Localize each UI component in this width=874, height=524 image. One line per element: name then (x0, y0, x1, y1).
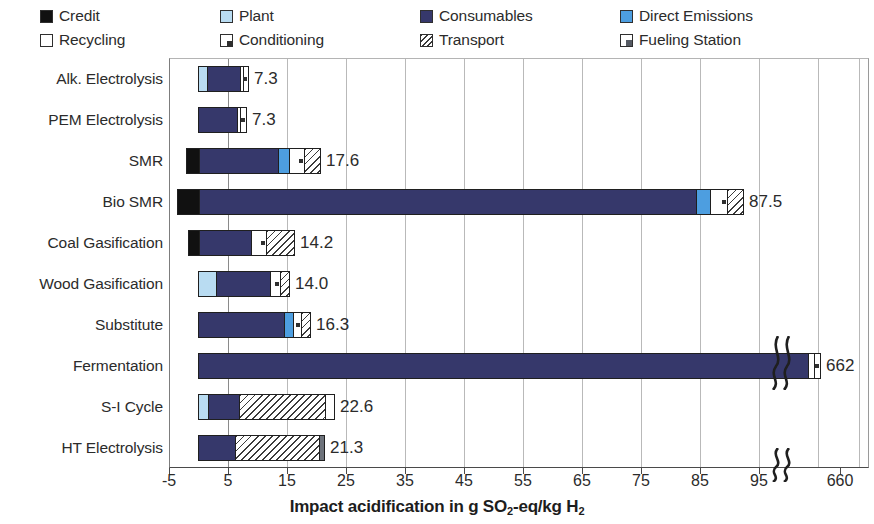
x-tick-mark-7 (582, 468, 583, 474)
x-tick-mark-8 (641, 468, 642, 474)
y-axis-label-8: S-I Cycle (101, 398, 163, 416)
x-axis-title-sub-2: 2 (578, 505, 584, 517)
x-axis-title-main: Impact acidification in g SO (290, 497, 507, 516)
plot-area: 7.37.317.687.514.214.016.366222.621.3 (169, 58, 869, 468)
legend-swatch-credit-icon (40, 10, 53, 23)
legend-swatch-conditioning-icon (220, 34, 233, 47)
x-tick-mark-4 (405, 468, 406, 474)
x-tick-label-8: 75 (632, 472, 650, 490)
legend-label-fueling: Fueling Station (639, 31, 741, 49)
legend-item-plant[interactable]: Plant (220, 7, 420, 25)
x-tick-mark-11 (840, 468, 841, 474)
legend-swatch-fueling-icon (620, 34, 633, 47)
y-axis-label-7: Fermentation (73, 357, 163, 375)
x-tick-label-0: -5 (162, 472, 176, 490)
y-axis-label-5: Wood Gasification (39, 275, 163, 293)
y-axis-label-0: Alk. Electrolysis (56, 70, 163, 88)
x-tick-label-4: 35 (396, 472, 414, 490)
legend-label-consumables: Consumables (439, 7, 533, 25)
legend-swatch-recycling-icon (40, 34, 53, 47)
legend-item-consumables[interactable]: Consumables (420, 7, 620, 25)
x-tick-label-9: 85 (691, 472, 709, 490)
x-axis-title: Impact acidification in g SO2-eq/kg H2 (0, 497, 874, 517)
legend-swatch-transport-icon (420, 34, 433, 47)
x-tick-mark-2 (287, 468, 288, 474)
x-tick-label-7: 65 (573, 472, 591, 490)
legend-item-conditioning[interactable]: Conditioning (220, 31, 420, 49)
legend-item-fueling[interactable]: Fueling Station (620, 31, 840, 49)
x-tick-mark-0 (169, 468, 170, 474)
x-tick-label-11: 660 (827, 472, 854, 490)
legend-swatch-consumables-icon (420, 10, 433, 23)
y-axis-label-9: HT Electrolysis (61, 439, 163, 457)
legend-label-recycling: Recycling (59, 31, 125, 49)
y-axis-label-1: PEM Electrolysis (48, 111, 163, 129)
legend-label-credit: Credit (59, 7, 100, 25)
y-axis-label-2: SMR (129, 152, 163, 170)
x-tick-mark-5 (464, 468, 465, 474)
legend-item-transport[interactable]: Transport (420, 31, 620, 49)
legend-swatch-direct-icon (620, 10, 633, 23)
x-tick-label-10: 95 (750, 472, 768, 490)
chart-legend: CreditPlantConsumablesDirect EmissionsRe… (40, 4, 840, 52)
x-axis-tick-labels: -55152535455565758595660 (0, 472, 874, 498)
legend-item-recycling[interactable]: Recycling (40, 31, 220, 49)
y-axis-label-6: Substitute (95, 316, 163, 334)
legend-item-credit[interactable]: Credit (40, 7, 220, 25)
y-axis-label-4: Coal Gasification (48, 234, 163, 252)
legend-label-transport: Transport (439, 31, 504, 49)
x-axis-title-tail: -eq/kg H (513, 497, 578, 516)
legend-item-direct[interactable]: Direct Emissions (620, 7, 840, 25)
x-axis-title-sub-1: 2 (507, 505, 513, 517)
y-axis-category-labels: Alk. ElectrolysisPEM ElectrolysisSMRBio … (0, 58, 163, 468)
x-tick-mark-1 (228, 468, 229, 474)
x-tick-mark-3 (346, 468, 347, 474)
legend-label-plant: Plant (239, 7, 274, 25)
y-axis-label-3: Bio SMR (103, 193, 163, 211)
legend-swatch-plant-icon (220, 10, 233, 23)
x-tick-label-5: 45 (455, 472, 473, 490)
x-tick-label-1: 5 (224, 472, 233, 490)
legend-label-direct: Direct Emissions (639, 7, 753, 25)
x-tick-label-6: 55 (514, 472, 532, 490)
x-tick-label-2: 15 (278, 472, 296, 490)
x-tick-mark-9 (700, 468, 701, 474)
plot-border (169, 58, 869, 468)
x-tick-mark-10 (759, 468, 760, 474)
x-tick-label-3: 25 (337, 472, 355, 490)
legend-label-conditioning: Conditioning (239, 31, 324, 49)
x-tick-mark-6 (523, 468, 524, 474)
